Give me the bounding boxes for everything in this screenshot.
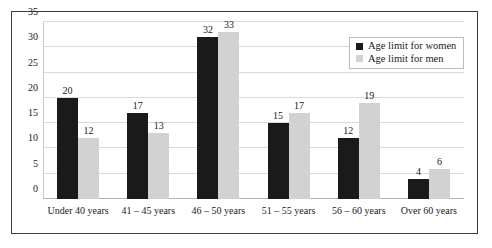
legend-swatch-icon-men <box>356 55 363 62</box>
bar-value-label: 20 <box>63 86 73 96</box>
legend-swatch-icon-women <box>356 43 363 50</box>
bar-men: 13 <box>148 133 169 199</box>
gridline-5: 5 <box>43 173 464 174</box>
chart-frame: 05101520253035 2012Under 40 years171341 … <box>11 11 478 234</box>
bar-men: 19 <box>359 103 380 199</box>
bar-women: 32 <box>197 37 218 199</box>
legend-item-men: Age limit for men <box>356 54 456 65</box>
legend-label-men: Age limit for men <box>368 54 444 65</box>
y-axis-tick-10: 10 <box>28 133 38 143</box>
bar-value-label: 12 <box>343 126 353 136</box>
legend-label-women: Age limit for women <box>368 41 456 52</box>
bar-group: 2012Under 40 years <box>57 22 99 199</box>
bar-women: 20 <box>57 98 78 199</box>
y-axis-tick-15: 15 <box>28 108 38 118</box>
bar-women: 17 <box>127 113 148 199</box>
bar-men: 17 <box>289 113 310 199</box>
bar-value-label: 12 <box>84 126 94 136</box>
bar-value-label: 15 <box>273 111 283 121</box>
gridline-0: 0 <box>43 198 464 199</box>
bar-group: 323346 – 50 years <box>197 22 239 199</box>
x-axis-category-label: 56 – 60 years <box>332 206 386 216</box>
bar-women: 12 <box>338 138 359 199</box>
bar-value-label: 19 <box>364 91 374 101</box>
gridline-10: 10 <box>43 147 464 148</box>
x-axis-category-label: 41 – 45 years <box>121 206 175 216</box>
y-axis-tick-0: 0 <box>33 184 38 194</box>
bar-men: 6 <box>429 169 450 199</box>
bar-value-label: 6 <box>437 157 442 167</box>
bar-value-label: 4 <box>416 167 421 177</box>
y-axis-tick-30: 30 <box>28 32 38 42</box>
x-axis-category-label: Under 40 years <box>48 206 109 216</box>
legend-item-women: Age limit for women <box>356 41 456 52</box>
gridline-25: 25 <box>43 72 464 73</box>
x-axis-category-label: Over 60 years <box>401 206 457 216</box>
bar-women: 15 <box>268 123 289 199</box>
y-axis-tick-20: 20 <box>28 83 38 93</box>
bar-value-label: 17 <box>294 101 304 111</box>
bar-men: 33 <box>218 32 239 199</box>
bar-men: 12 <box>78 138 99 199</box>
bar-group: 171341 – 45 years <box>127 22 169 199</box>
y-axis-tick-5: 5 <box>33 159 38 169</box>
x-axis-category-label: 51 – 55 years <box>262 206 316 216</box>
chart-legend: Age limit for women Age limit for men <box>349 37 464 69</box>
y-axis-tick-35: 35 <box>28 7 38 17</box>
bar-value-label: 32 <box>203 25 213 35</box>
bar-group: 151751 – 55 years <box>268 22 310 199</box>
y-axis-tick-25: 25 <box>28 58 38 68</box>
gridline-15: 15 <box>43 122 464 123</box>
x-axis-category-label: 46 – 50 years <box>192 206 246 216</box>
bar-value-label: 17 <box>133 101 143 111</box>
bar-value-label: 13 <box>154 121 164 131</box>
gridline-20: 20 <box>43 97 464 98</box>
gridline-35: 35 <box>43 21 464 22</box>
bar-women: 4 <box>408 179 429 199</box>
bar-value-label: 33 <box>224 20 234 30</box>
